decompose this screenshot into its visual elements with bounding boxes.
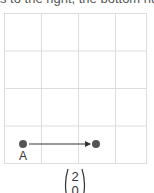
point-a-image — [92, 140, 100, 148]
point-a — [19, 140, 27, 148]
vector-top: 2 — [71, 169, 78, 184]
grid — [5, 14, 147, 164]
column-vector: 2 0 — [62, 168, 88, 193]
right-parenthesis — [82, 169, 85, 193]
translation-grid-diagram: A — [0, 0, 154, 193]
point-a-label: A — [19, 149, 27, 163]
left-parenthesis — [66, 169, 69, 193]
vector-bottom: 0 — [71, 183, 78, 193]
